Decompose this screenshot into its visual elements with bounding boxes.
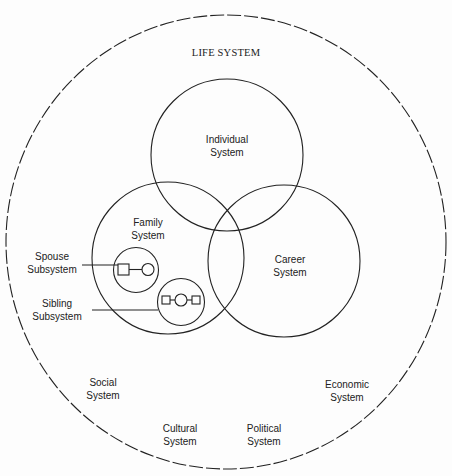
life-system-title: LIFE SYSTEM: [192, 46, 260, 59]
family-system-label: Family System: [131, 216, 164, 242]
female-circle-icon: [175, 294, 187, 306]
family-system-circle: [92, 182, 244, 334]
political-system-label: Political System: [247, 422, 281, 448]
life-system-boundary: [6, 15, 446, 469]
male-square-icon: [162, 296, 170, 304]
social-system-label: Social System: [86, 376, 119, 402]
sibling-subsystem-label: Sibling Subsystem: [32, 297, 81, 323]
economic-system-label: Economic System: [325, 378, 369, 404]
individual-system-label: Individual System: [206, 133, 248, 159]
sibling-subsystem: [92, 279, 205, 326]
life-system-diagram: LIFE SYSTEM Individual System Family Sys…: [0, 0, 452, 476]
male-square-icon: [118, 264, 129, 275]
male-square-icon: [192, 296, 200, 304]
female-circle-icon: [142, 264, 154, 276]
spouse-subsystem-label: Spouse Subsystem: [27, 250, 76, 276]
diagram-shapes: [0, 0, 452, 476]
career-system-label: Career System: [273, 253, 306, 279]
cultural-system-label: Cultural System: [163, 422, 197, 448]
